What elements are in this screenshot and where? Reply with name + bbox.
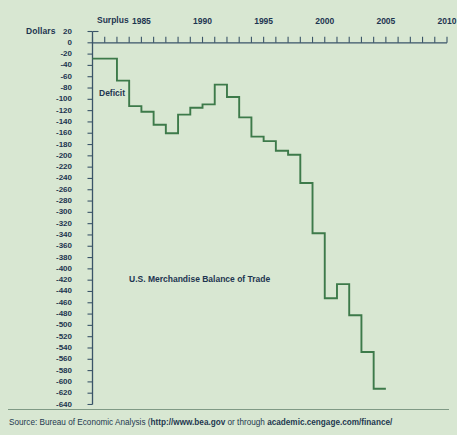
- cengage-url[interactable]: academic.cengage.com/finance/: [267, 418, 392, 427]
- footer-divider: [8, 409, 449, 410]
- source-prefix: Source: Bureau of Economic Analysis (: [9, 418, 151, 427]
- bea-url[interactable]: http://www.bea.gov: [151, 418, 226, 427]
- source-note: Source: Bureau of Economic Analysis (htt…: [9, 418, 392, 427]
- source-mid: or through: [225, 418, 267, 427]
- chart-container: Dollars Surplus Deficit U.S. Merchandise…: [0, 0, 457, 405]
- plot-area: [0, 0, 457, 405]
